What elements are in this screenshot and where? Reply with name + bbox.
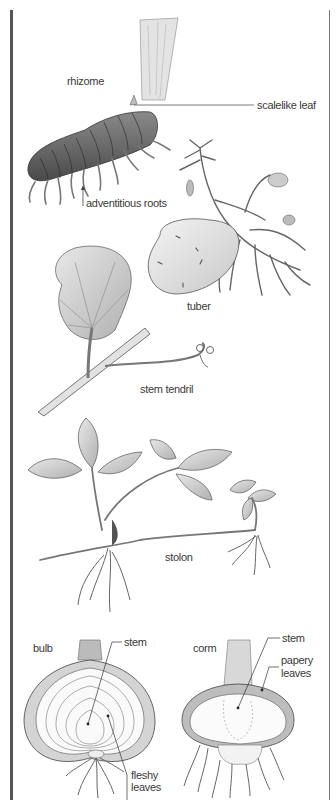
label-bulb-stem: stem: [124, 636, 147, 648]
label-scalelike-leaf: scalelike leaf: [257, 99, 316, 111]
illustration-canvas: [0, 0, 336, 805]
label-corm-stem: stem: [282, 632, 305, 644]
corm-illustration: [182, 638, 294, 798]
rhizome-illustration: [28, 18, 254, 206]
label-corm-papery: papery: [281, 654, 313, 666]
label-bulb: bulb: [33, 642, 53, 654]
label-adventitious-roots: adventitious roots: [86, 197, 167, 209]
tuber-illustration: [148, 140, 310, 295]
label-tuber: tuber: [187, 300, 211, 312]
label-bulb-leaves: leaves: [131, 781, 161, 793]
label-corm: corm: [193, 642, 216, 654]
label-stem-tendril: stem tendril: [140, 383, 193, 395]
label-corm-leaves: leaves: [281, 667, 311, 679]
stolon-illustration: [28, 418, 276, 612]
label-rhizome: rhizome: [67, 75, 104, 87]
label-bulb-fleshy: fleshy: [131, 769, 158, 781]
label-stolon: stolon: [165, 551, 193, 563]
